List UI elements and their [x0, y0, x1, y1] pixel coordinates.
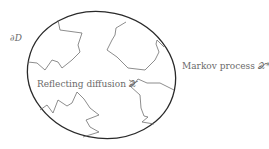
path-bottom-right-branch: [130, 83, 154, 124]
path-top-right: [107, 22, 164, 70]
path-top-left: [28, 20, 82, 70]
diagram-canvas: [0, 0, 269, 149]
domain-boundary: [16, 0, 188, 149]
markov-process-label: Markov process 𝒳*: [182, 62, 269, 71]
boundary-label: ∂D: [10, 34, 22, 43]
reflecting-diffusion-label: Reflecting diffusion 𝒳: [37, 80, 137, 89]
